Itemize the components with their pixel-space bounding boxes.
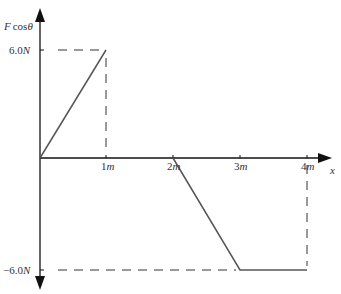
- y-axis-down-arrow-icon: [35, 276, 45, 290]
- y-tick-negative: −6.0N: [3, 264, 31, 276]
- y-axis-up-arrow-icon: [35, 8, 45, 22]
- y-axis-label: Fcosθ: [3, 20, 33, 32]
- x-tick-4m: 4m: [301, 160, 315, 172]
- y-tick-positive: 6.0N: [9, 44, 31, 56]
- x-axis-right-arrow-icon: [318, 153, 332, 163]
- x-axis: [40, 153, 332, 163]
- x-axis-label: x: [329, 164, 335, 176]
- x-tick-1m: 1m: [101, 160, 115, 172]
- force-curve-negative: [173, 158, 307, 270]
- force-position-chart: Fcosθ 6.0N −6.0N 1m 2m 3m 4m x: [0, 0, 341, 294]
- x-tick-3m: 3m: [234, 160, 248, 172]
- dashed-guides: [58, 50, 307, 270]
- force-curve: [40, 50, 106, 158]
- x-tick-2m: 2m: [167, 160, 181, 172]
